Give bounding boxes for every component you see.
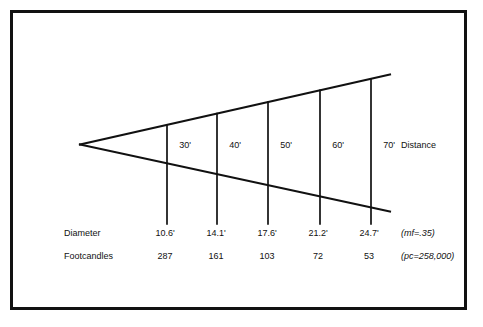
distance-label-60: 60' — [332, 141, 344, 150]
footcandles-value-60: 72 — [313, 252, 323, 261]
diameter-value-60: 21.2' — [308, 229, 327, 238]
note-peak-candlepower: (pc=258,000) — [401, 252, 454, 261]
footcandles-value-40: 161 — [208, 252, 223, 261]
diagram-page: 30' 40' 50' 60' 70' Distance Diameter 10… — [0, 0, 483, 327]
distance-axis-label: Distance — [401, 141, 436, 150]
footcandles-value-70: 53 — [364, 252, 374, 261]
diameter-value-70: 24.7' — [359, 229, 378, 238]
row-label-footcandles: Footcandles — [64, 252, 113, 261]
row-label-diameter: Diameter — [64, 229, 101, 238]
diameter-value-50: 17.6' — [257, 229, 276, 238]
distance-label-40: 40' — [229, 141, 241, 150]
diameter-value-30: 10.6' — [155, 229, 174, 238]
footcandles-value-50: 103 — [259, 252, 274, 261]
distance-label-30: 30' — [179, 141, 191, 150]
distance-label-70: 70' — [383, 141, 395, 150]
note-maintenance-factor: (mf=.35) — [401, 229, 435, 238]
cone-lower-edge — [80, 145, 390, 212]
diameter-value-40: 14.1' — [206, 229, 225, 238]
beam-cone-drawing — [0, 0, 483, 327]
distance-label-50: 50' — [280, 141, 292, 150]
cone-upper-edge — [80, 75, 390, 145]
footcandles-value-30: 287 — [157, 252, 172, 261]
